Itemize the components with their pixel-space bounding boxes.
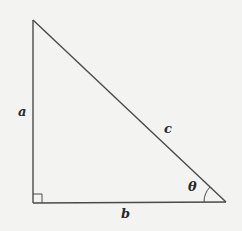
triangle-figure <box>0 0 242 231</box>
side-c-label: c <box>164 122 172 135</box>
side-a-label: a <box>18 105 26 118</box>
side-b-line <box>33 202 226 203</box>
theta-angle-arc <box>204 187 210 202</box>
side-b-label: b <box>121 207 130 220</box>
right-angle-marker <box>33 194 42 203</box>
side-c-hypotenuse <box>33 20 226 202</box>
right-triangle-diagram: a b c θ <box>0 0 242 231</box>
angle-theta-label: θ <box>188 180 197 193</box>
